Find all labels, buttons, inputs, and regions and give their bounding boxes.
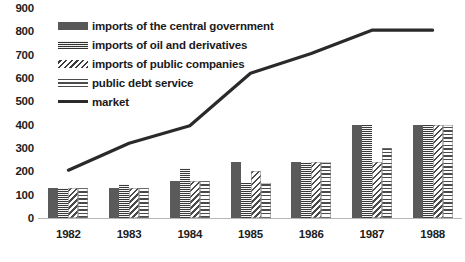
bar (58, 188, 68, 218)
chart-legend: imports of the central governmentimports… (58, 16, 274, 111)
x-tick-label: 1984 (177, 228, 202, 240)
bar (382, 148, 392, 218)
line-swatch-icon (58, 98, 88, 106)
bar-group (413, 8, 453, 218)
x-tick-label: 1985 (238, 228, 263, 240)
x-tick-label: 1982 (56, 228, 81, 240)
horizontal-lines-swatch-icon (58, 79, 88, 87)
legend-item[interactable]: public debt service (58, 73, 274, 92)
bar (352, 125, 362, 218)
x-axis: 1982198319841985198619871988 (38, 222, 463, 246)
diagonal-hatch-swatch-icon (58, 60, 88, 68)
y-tick-label: 900 (15, 2, 34, 14)
bar (190, 181, 200, 218)
x-tick-label: 1987 (360, 228, 385, 240)
bar (119, 184, 129, 218)
bar (129, 188, 139, 218)
bar (423, 125, 433, 218)
bar (261, 183, 271, 218)
bar-group (291, 8, 331, 218)
axis-baseline (38, 218, 462, 219)
legend-item-label: imports of oil and derivatives (92, 39, 247, 51)
bar (291, 162, 301, 218)
bar (433, 125, 443, 218)
y-tick-label: 400 (15, 119, 34, 131)
bar (139, 188, 149, 218)
legend-item[interactable]: market (58, 92, 274, 111)
bar (231, 162, 241, 218)
legend-item-label: imports of public companies (92, 58, 245, 70)
y-tick-label: 100 (15, 189, 34, 201)
bar (170, 181, 180, 218)
legend-item[interactable]: imports of public companies (58, 54, 274, 73)
solid-swatch-icon (58, 22, 88, 30)
bar-group (352, 8, 392, 218)
x-tick-label: 1983 (117, 228, 142, 240)
bar (251, 171, 261, 218)
bar (311, 162, 321, 218)
bar (372, 162, 382, 218)
bar (321, 162, 331, 218)
y-axis: 1002003004005006007008009000 (0, 0, 36, 218)
bar (109, 188, 119, 218)
bar (413, 125, 423, 218)
bar (48, 188, 58, 218)
bar (180, 168, 190, 218)
legend-item-label: public debt service (92, 77, 193, 89)
y-tick-label: 0 (28, 212, 34, 224)
chart-container: 1002003004005006007008009000 19821983198… (0, 0, 465, 262)
dotted-swatch-icon (58, 41, 88, 49)
x-tick-label: 1988 (420, 228, 445, 240)
y-tick-label: 500 (15, 95, 34, 107)
bar (362, 125, 372, 218)
x-tick-label: 1986 (299, 228, 324, 240)
legend-item[interactable]: imports of the central government (58, 16, 274, 35)
legend-item-label: market (92, 96, 129, 108)
y-tick-label: 200 (15, 165, 34, 177)
y-tick-label: 600 (15, 72, 34, 84)
legend-item[interactable]: imports of oil and derivatives (58, 35, 274, 54)
bar (200, 181, 210, 218)
y-tick-label: 700 (15, 49, 34, 61)
bar (443, 125, 453, 218)
bar (78, 188, 88, 218)
y-tick-label: 800 (15, 25, 34, 37)
bar (241, 183, 251, 218)
bar (301, 162, 311, 218)
bar (68, 188, 78, 218)
legend-item-label: imports of the central government (92, 20, 274, 32)
y-tick-label: 300 (15, 142, 34, 154)
